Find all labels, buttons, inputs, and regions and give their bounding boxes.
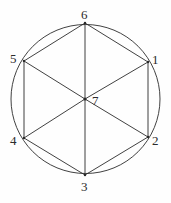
graph-vertex-4 (23, 137, 25, 139)
graph-edge-2-3 (85, 137, 148, 175)
graph-vertex-2 (147, 136, 149, 138)
vertex-label-3: 3 (81, 180, 88, 193)
graph-vertex-1 (147, 61, 149, 63)
graph-vertex-3 (84, 174, 86, 176)
graph-vertex-7 (83, 97, 86, 100)
vertex-label-4: 4 (10, 134, 17, 147)
vertex-label-7: 7 (92, 94, 99, 107)
graph-edge-5-6 (24, 23, 85, 61)
figure-container: 1234567 (0, 0, 171, 203)
vertex-label-5: 5 (10, 52, 17, 65)
graph-vertex-5 (23, 60, 25, 62)
graph-vertex-6 (84, 22, 86, 24)
hexagon-graph-svg (0, 0, 171, 203)
vertex-label-1: 1 (152, 53, 159, 66)
graph-vertices (23, 22, 149, 176)
vertex-label-6: 6 (81, 8, 88, 21)
graph-edge-6-1 (85, 23, 148, 62)
graph-edge-4-7 (24, 99, 85, 138)
graph-edge-3-4 (24, 138, 85, 175)
graph-edge-5-7 (24, 61, 85, 99)
vertex-label-2: 2 (152, 134, 159, 147)
